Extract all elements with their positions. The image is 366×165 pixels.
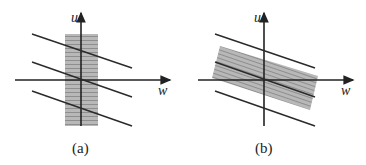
x-axis-label-b: w — [341, 83, 351, 98]
caption-a: (a) — [72, 140, 89, 157]
panel-b: u w (b) — [198, 10, 353, 157]
diagram-canvas: u w (a) u w (b) — [0, 0, 366, 165]
y-axis-label-b: u — [254, 10, 261, 25]
shaded-region-b — [212, 46, 318, 110]
x-axis-label-a: w — [158, 83, 168, 98]
y-axis-label-a: u — [71, 10, 78, 25]
panel-a: u w (a) — [15, 10, 170, 157]
caption-b: (b) — [255, 140, 273, 157]
